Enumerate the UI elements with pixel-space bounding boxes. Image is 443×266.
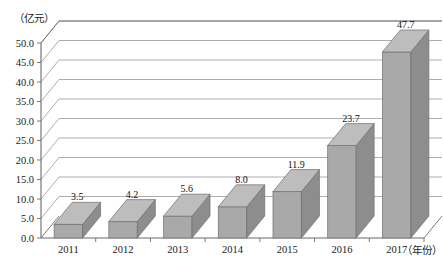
y-axis-tick-label: 0.0 <box>21 233 34 244</box>
bar <box>382 30 428 238</box>
bar-value-label: 11.9 <box>288 159 305 170</box>
x-axis-unit-label: （年份） <box>402 244 442 256</box>
y-axis-unit-label: （亿元） <box>14 12 54 24</box>
x-axis-tick-label: 2013 <box>167 244 188 255</box>
bar-front-face <box>218 207 246 238</box>
x-axis-tick-label: 2015 <box>277 244 298 255</box>
y-axis-tick-label: 25.0 <box>16 135 34 146</box>
y-axis-tick-label: 30.0 <box>16 116 34 127</box>
bar-side-face <box>411 30 429 238</box>
y-axis-tick-label: 20.0 <box>16 155 34 166</box>
y-axis-tick-label: 40.0 <box>16 77 34 88</box>
y-axis-tick-label: 45.0 <box>16 57 34 68</box>
y-axis-tick-label: 15.0 <box>16 174 34 185</box>
bar-value-label: 4.2 <box>126 189 139 200</box>
bar-front-face <box>382 52 410 238</box>
y-axis-tick-label: 10.0 <box>16 194 34 205</box>
bar-front-face <box>273 192 301 238</box>
bar-value-label: 8.0 <box>235 174 248 185</box>
bar-value-label: 23.7 <box>342 113 360 124</box>
x-axis-tick-label: 2011 <box>58 244 79 255</box>
bar-front-face <box>328 146 356 238</box>
bar-value-label: 5.6 <box>181 183 194 194</box>
chart-canvas: 0.05.010.015.020.025.030.035.040.045.050… <box>0 0 443 266</box>
x-axis-tick-label: 2014 <box>222 244 244 255</box>
bar-front-face <box>109 222 137 238</box>
bar <box>328 124 374 238</box>
bar-front-face <box>54 224 82 238</box>
bar-chart-3d: 0.05.010.015.020.025.030.035.040.045.050… <box>0 0 443 266</box>
x-axis-tick-label: 2016 <box>331 244 352 255</box>
x-axis-tick-label: 2012 <box>113 244 134 255</box>
y-axis-tick-label: 50.0 <box>16 38 34 49</box>
bar-value-label: 47.7 <box>397 19 415 30</box>
bar-value-label: 3.5 <box>71 191 84 202</box>
y-axis-tick-label: 5.0 <box>21 213 34 224</box>
y-axis-tick-label: 35.0 <box>16 96 34 107</box>
bar-front-face <box>164 216 192 238</box>
